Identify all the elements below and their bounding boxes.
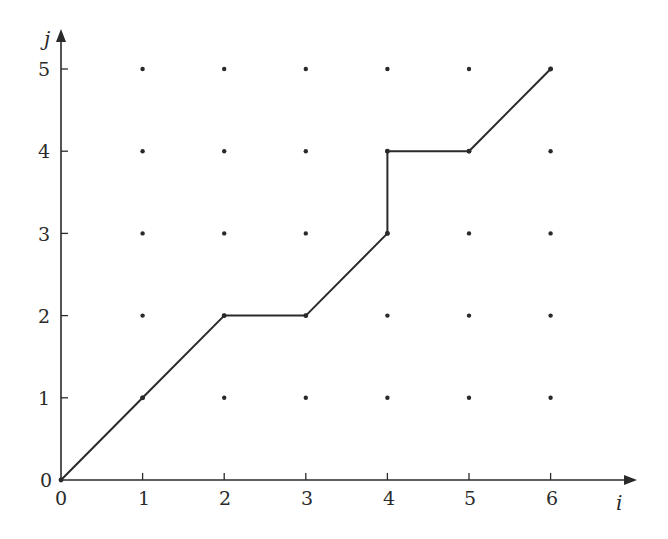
path-vertex (385, 231, 390, 236)
path-vertex (385, 149, 390, 154)
lattice-point (140, 313, 144, 317)
lattice-point (548, 396, 552, 400)
path-vertex (140, 395, 145, 400)
x-tick-label-6: 6 (546, 487, 558, 509)
lattice-point (222, 149, 226, 153)
path-vertices (59, 67, 553, 483)
x-axis-arrow-icon (624, 475, 637, 485)
path-vertex (59, 478, 64, 483)
lattice-point (548, 231, 552, 235)
lattice-point (304, 231, 308, 235)
y-origin-label: 0 (40, 469, 52, 491)
lattice-point (548, 149, 552, 153)
y-tick-label-3: 3 (38, 223, 50, 245)
lattice-path (61, 69, 551, 480)
y-tick-label-4: 4 (38, 140, 50, 162)
diagram-canvas: j i 0 0 1 2 3 4 5 6 1 2 3 4 5 (0, 0, 668, 539)
lattice-point (222, 67, 226, 71)
x-tick-label-2: 2 (219, 487, 231, 509)
y-tick-label-1: 1 (38, 387, 50, 409)
x-tick-label-3: 3 (301, 487, 313, 509)
axes (56, 29, 637, 485)
lattice-point (467, 313, 471, 317)
lattice-point (467, 231, 471, 235)
lattice-point (385, 67, 389, 71)
y-tick-label-5: 5 (38, 58, 50, 80)
path-vertex (467, 149, 472, 154)
path-vertex (548, 67, 553, 72)
x-tick-label-1: 1 (138, 487, 150, 509)
lattice-point (385, 396, 389, 400)
y-tick-label-2: 2 (38, 305, 50, 327)
y-axis-label: j (40, 27, 50, 51)
lattice-path-diagram: j i 0 0 1 2 3 4 5 6 1 2 3 4 5 (0, 0, 668, 539)
x-tick-label-5: 5 (464, 487, 476, 509)
lattice-point (140, 231, 144, 235)
axis-ticks (61, 69, 551, 480)
path-vertex (303, 313, 308, 318)
lattice-point (304, 396, 308, 400)
lattice-point (548, 313, 552, 317)
lattice-point (304, 67, 308, 71)
lattice-point (467, 396, 471, 400)
x-tick-label-4: 4 (383, 487, 395, 509)
lattice-point (140, 149, 144, 153)
path-vertex (222, 313, 227, 318)
x-origin-label: 0 (55, 487, 67, 509)
lattice-point (222, 231, 226, 235)
lattice-point (385, 313, 389, 317)
lattice-point (222, 396, 226, 400)
lattice-points (140, 67, 552, 400)
lattice-point (467, 67, 471, 71)
x-axis-label: i (616, 491, 622, 515)
lattice-point (140, 67, 144, 71)
y-axis-arrow-icon (56, 29, 66, 42)
lattice-point (304, 149, 308, 153)
